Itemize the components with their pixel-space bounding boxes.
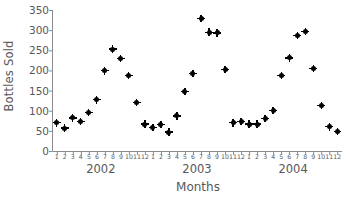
x-axis-group-labels: 200220032004 [52, 162, 344, 178]
y-axis-title: Bottles Sold [0, 0, 18, 152]
data-point [263, 116, 268, 121]
y-tick-label: 300 [19, 25, 49, 36]
data-point [311, 66, 316, 71]
data-point [207, 30, 212, 35]
x-axis-year-label: 2002 [71, 162, 131, 176]
y-tick-label: 350 [19, 5, 49, 16]
x-axis-year-label: 2003 [167, 162, 227, 176]
y-tick-label: 150 [19, 86, 49, 97]
data-point [231, 120, 236, 125]
y-tick-label: 100 [19, 106, 49, 117]
y-tick-label: 0 [19, 146, 49, 157]
x-tick-label: 12 [329, 153, 345, 161]
data-point [62, 126, 67, 131]
data-point [223, 67, 228, 72]
y-axis-tick-labels: 050100150200250300350 [17, 10, 49, 151]
y-tick-label: 200 [19, 65, 49, 76]
data-point [319, 103, 324, 108]
data-point [335, 129, 340, 134]
y-tick-label: 250 [19, 45, 49, 56]
data-point [303, 29, 308, 34]
y-axis-title-label: Bottles Sold [2, 40, 16, 111]
axis-lines [52, 10, 344, 153]
data-point [199, 16, 204, 21]
x-axis-title: Months [52, 180, 344, 194]
data-point [255, 122, 260, 127]
data-point [110, 47, 115, 52]
data-point [295, 33, 300, 38]
data-point [239, 119, 244, 124]
data-point [247, 122, 252, 127]
data-point [271, 108, 276, 113]
data-point [279, 73, 284, 78]
plot-area [52, 10, 342, 151]
y-tick-label: 50 [19, 126, 49, 137]
scatter-chart: Bottles Sold 050100150200250300350 12345… [0, 0, 354, 207]
x-axis-year-label: 2004 [263, 162, 323, 176]
